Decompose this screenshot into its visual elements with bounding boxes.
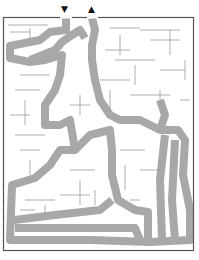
arrow-down-icon: ▼ <box>61 4 68 14</box>
maze-board <box>0 0 199 260</box>
arrow-up-icon: ▲ <box>88 4 95 14</box>
solution-path <box>10 18 190 242</box>
